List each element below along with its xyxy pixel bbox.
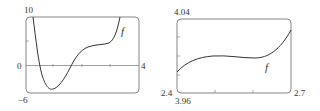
right-frame bbox=[177, 19, 291, 93]
left-y-bottom-label: −6 bbox=[18, 95, 28, 105]
right-curve-label: f bbox=[265, 61, 270, 73]
right-chart: 4.04 2.4 3.96 2.7 f bbox=[161, 7, 306, 106]
left-curve-f bbox=[33, 17, 120, 89]
left-curve-label: f bbox=[121, 25, 126, 37]
figure: 10 0 −6 4 f 4.04 2.4 3.96 2.7 f bbox=[0, 0, 320, 111]
left-chart: 10 0 −6 4 f bbox=[17, 5, 146, 105]
right-y-top-label: 4.04 bbox=[174, 7, 190, 17]
left-x-right-label: 4 bbox=[141, 61, 146, 71]
right-x-right-label: 2.7 bbox=[294, 88, 306, 98]
left-y-top-label: 10 bbox=[24, 5, 34, 15]
right-curve-f bbox=[177, 30, 291, 72]
right-y-bottom-label: 3.96 bbox=[175, 96, 191, 106]
left-y-zero-label: 0 bbox=[17, 61, 22, 71]
right-x-left-label: 2.4 bbox=[161, 88, 173, 98]
